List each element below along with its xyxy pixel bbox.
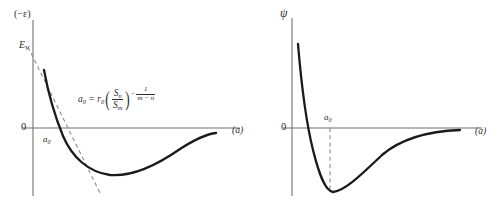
- right-origin-label: 0: [281, 122, 286, 133]
- equation-right-paren: ): [125, 93, 129, 106]
- equation-ratio-numerator: Sn: [113, 88, 123, 99]
- equation-lhs: a0: [78, 95, 86, 106]
- equation-exponent-denominator: m − n: [136, 95, 155, 103]
- equation-exponent-fraction: 1 m − n: [136, 86, 155, 102]
- equation-ratio-numerator-subscript: n: [118, 92, 121, 99]
- equation-ratio-denominator: Sm: [112, 100, 123, 111]
- equation-exponent-numerator: 1: [143, 86, 149, 94]
- left-tangent-dashed-line: [28, 47, 100, 193]
- right-equilibrium-tick-label: a0: [324, 113, 332, 123]
- right-equilibrium-tick-subscript: 0: [329, 117, 332, 123]
- equation-exponent-sign: −: [131, 91, 135, 98]
- left-energy-label: EV: [19, 40, 29, 52]
- right-plot-canvas: [249, 0, 498, 207]
- left-energy-curve: [44, 70, 216, 175]
- left-energy-label-subscript: V: [25, 44, 29, 51]
- equation-rhs-prefactor: r0: [97, 95, 104, 106]
- equation-left-paren: (: [106, 93, 110, 106]
- equation-lhs-subscript: 0: [83, 98, 86, 105]
- equation-ratio-denominator-subscript: m: [118, 104, 123, 111]
- interatomic-potential-figure: (−ε) EV 0 a0 (a) a0 = r0 ( Sn Sm ) − 1 m…: [0, 0, 498, 207]
- equation-equals-sign: =: [89, 95, 94, 105]
- left-x-axis-label: (a): [232, 126, 243, 136]
- left-equilibrium-tick-label: a0: [43, 135, 51, 145]
- equation-ratio-fraction: Sn Sm: [112, 88, 123, 112]
- equilibrium-spacing-equation: a0 = r0 ( Sn Sm ) − 1 m − n: [78, 88, 156, 112]
- equation-exponent: − 1 m − n: [131, 86, 155, 102]
- right-potential-curve: [298, 44, 460, 192]
- equation-rhs-subscript: 0: [101, 98, 104, 105]
- left-equilibrium-tick-subscript: 0: [48, 139, 51, 145]
- left-origin-label: 0: [21, 122, 26, 133]
- chart-panel-left: (−ε) EV 0 a0 (a) a0 = r0 ( Sn Sm ) − 1 m…: [0, 0, 249, 207]
- right-x-axis-label: (a): [475, 127, 486, 137]
- right-y-axis-label: ψ: [280, 7, 287, 19]
- chart-panel-right: ψ 0 a0 (a): [249, 0, 498, 207]
- left-y-axis-label: (−ε): [14, 9, 31, 19]
